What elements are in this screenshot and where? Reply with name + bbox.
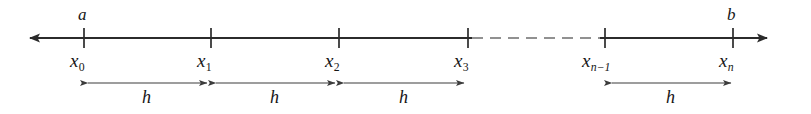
node-label-x1-sub: 1 [206, 61, 212, 74]
node-label-x1: x1 [197, 51, 211, 70]
node-label-xn-1-sub: n−1 [591, 61, 611, 74]
endpoint-label-a: a [78, 6, 87, 23]
node-label-x0: x0 [70, 51, 84, 70]
step-label-h-1: h [270, 88, 279, 106]
node-label-x3-base: x [454, 50, 462, 71]
node-label-x3: x3 [454, 51, 468, 70]
node-label-x3-sub: 3 [463, 61, 469, 74]
step-label-h-2: h [399, 88, 408, 106]
partition-number-line-figure: a b x0 x1 x2 x3 xn−1 xn h h h h [0, 0, 811, 114]
node-label-xn-sub: n [728, 61, 734, 74]
node-label-x2-sub: 2 [334, 61, 340, 74]
node-label-x2: x2 [325, 51, 339, 70]
node-label-x1-base: x [197, 50, 205, 71]
node-label-x2-base: x [325, 50, 333, 71]
node-label-x0-base: x [70, 50, 78, 71]
node-label-xn-base: x [719, 50, 727, 71]
step-label-h-0: h [142, 88, 151, 106]
node-label-xn-1: xn−1 [582, 51, 610, 70]
step-label-h-3: h [666, 88, 675, 106]
endpoint-label-b: b [727, 6, 736, 23]
node-label-xn: xn [719, 51, 733, 70]
node-label-xn-1-base: x [582, 50, 590, 71]
node-label-x0-sub: 0 [79, 61, 85, 74]
